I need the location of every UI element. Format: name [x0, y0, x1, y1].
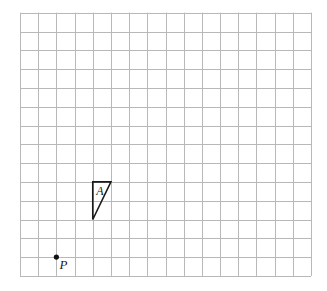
coordinate-grid-diagram: A P [0, 0, 327, 291]
point-p-marker [54, 255, 59, 260]
grid-lines [20, 13, 312, 277]
point-p-label: P [58, 257, 67, 272]
triangle-a-label: A [95, 184, 104, 198]
